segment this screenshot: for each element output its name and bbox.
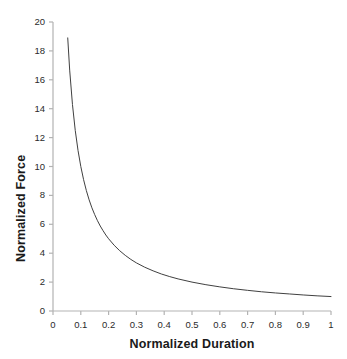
x-tick-label: 1	[316, 320, 346, 330]
y-tick-label: 12	[15, 133, 45, 143]
plot-canvas	[0, 0, 347, 359]
y-tick-label: 16	[15, 75, 45, 85]
x-tick-label: 0.9	[288, 320, 318, 330]
x-tick-label: 0.8	[260, 320, 290, 330]
data-series-line	[68, 38, 331, 297]
y-tick-label: 18	[15, 46, 45, 56]
x-tick-label: 0	[38, 320, 68, 330]
x-tick-label: 0.4	[149, 320, 179, 330]
chart-figure: 02468101214161820 00.10.20.30.40.50.60.7…	[0, 0, 347, 359]
x-tick-label: 0.7	[233, 320, 263, 330]
x-tick-label: 0.3	[121, 320, 151, 330]
y-tick-label: 14	[15, 104, 45, 114]
x-axis-title: Normalized Duration	[53, 337, 331, 351]
y-tick-label: 2	[15, 277, 45, 287]
x-tick-label: 0.5	[177, 320, 207, 330]
y-tick-label: 0	[15, 306, 45, 316]
x-tick-label: 0.1	[66, 320, 96, 330]
y-axis-title: Normalized Force	[14, 155, 28, 262]
x-tick-label: 0.6	[205, 320, 235, 330]
x-tick-label: 0.2	[94, 320, 124, 330]
y-tick-label: 20	[15, 17, 45, 27]
